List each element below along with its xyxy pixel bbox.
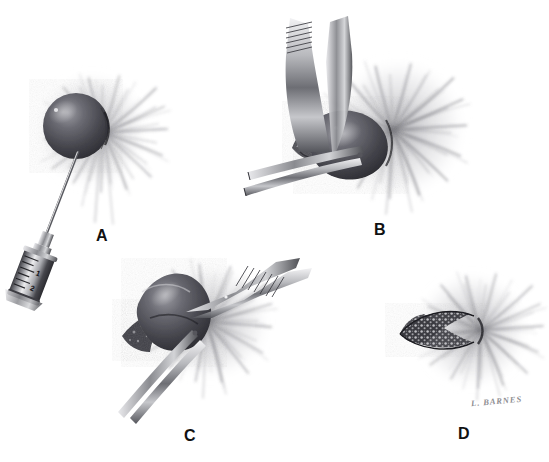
surgical-illustration-artwork: 1 2: [0, 0, 549, 462]
panel-label-b: B: [374, 222, 386, 238]
panel-label-a: A: [96, 228, 108, 244]
illustration-plate: 1 2: [0, 0, 549, 462]
panel-label-d: D: [458, 426, 470, 442]
panel-label-c: C: [184, 428, 196, 444]
